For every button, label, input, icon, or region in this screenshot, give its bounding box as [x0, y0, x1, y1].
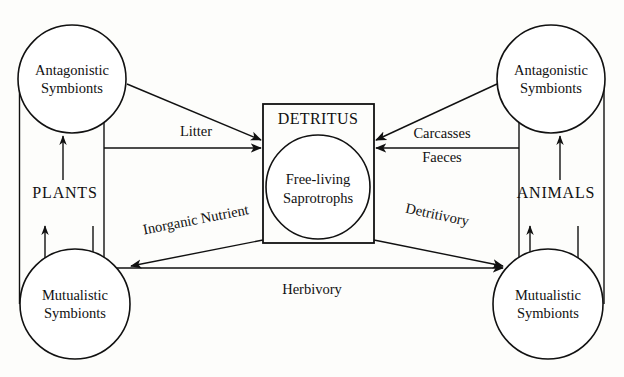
animal-antagonistic-symbionts-circle: [497, 25, 605, 133]
plant-antagonistic-symbionts-circle: [18, 25, 126, 133]
plants-group-label: PLANTS: [32, 184, 97, 201]
animals-group-label: ANIMALS: [517, 184, 596, 201]
animal-mutualistic-symbionts-circle: [493, 249, 603, 359]
litter-edge-label: Litter: [180, 123, 212, 139]
plant-mutualistic-label-line1: Mutualistic: [42, 287, 108, 303]
plant-mutualistic-label-line2: Symbionts: [44, 305, 106, 321]
faeces-edge-label: Faeces: [422, 149, 462, 165]
inorganic-nutrient-edge-label: Inorganic Nutrient: [142, 201, 250, 237]
plant-antagonistic-label-line2: Symbionts: [41, 80, 103, 96]
animal-antagonistic-label-line2: Symbionts: [520, 80, 582, 96]
saprotrophs-label-line1: Free-living: [286, 171, 350, 187]
plant-mutualistic-symbionts-circle: [20, 249, 130, 359]
herbivory-edge-label: Herbivory: [282, 281, 342, 297]
carcasses-edge-label: Carcasses: [413, 125, 471, 141]
detritivory-edge-label: Detritivory: [404, 200, 471, 229]
ecosystem-diagram: Antagonistic Symbionts Mutualistic Symbi…: [0, 0, 624, 377]
saprotrophs-label-line2: Saprotrophs: [283, 190, 353, 206]
diagram-canvas: Antagonistic Symbionts Mutualistic Symbi…: [0, 0, 624, 377]
animal-antagonistic-label-line1: Antagonistic: [514, 62, 588, 78]
edge-inorganic-nutrient: [131, 240, 263, 266]
edge-detritivory: [374, 240, 503, 266]
plant-antagonistic-label-line1: Antagonistic: [35, 62, 109, 78]
animal-mutualistic-label-line2: Symbionts: [517, 305, 579, 321]
detritus-title: DETRITUS: [278, 110, 359, 127]
animal-mutualistic-label-line1: Mutualistic: [515, 287, 581, 303]
